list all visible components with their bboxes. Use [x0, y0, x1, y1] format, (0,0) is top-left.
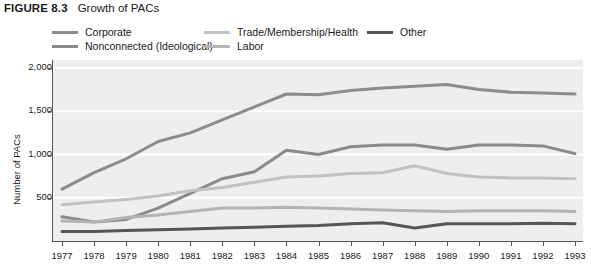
x-tick-label: 1992	[532, 250, 553, 261]
x-tick-mark	[543, 242, 544, 246]
x-tick-label: 1977	[51, 250, 72, 261]
x-tick-mark	[351, 242, 352, 246]
y-tick-mark	[48, 198, 52, 199]
x-tick-label: 1991	[500, 250, 521, 261]
x-tick-label: 1987	[372, 250, 393, 261]
x-tick-mark	[479, 242, 480, 246]
x-tick-label: 1980	[148, 250, 169, 261]
legend-label-corporate: Corporate	[85, 27, 132, 38]
x-tick-label: 1983	[244, 250, 265, 261]
x-tick-mark	[383, 242, 384, 246]
x-tick-label: 1981	[180, 250, 201, 261]
x-tick-mark	[286, 242, 287, 246]
legend-item-labor: Labor	[204, 41, 264, 52]
legend-swatch-corporate	[52, 31, 78, 35]
legend-label-trade-membership-health: Trade/Membership/Health	[237, 27, 358, 38]
legend-label-labor: Labor	[237, 41, 264, 52]
figure-container: FIGURE 8.3Growth of PACs Corporate Nonco…	[0, 0, 591, 266]
legend-item-corporate: Corporate	[52, 27, 132, 38]
x-tick-label: 1979	[116, 250, 137, 261]
legend-item-trade-membership-health: Trade/Membership/Health	[204, 27, 358, 38]
x-tick-mark	[319, 242, 320, 246]
legend-swatch-trade-membership-health	[204, 31, 230, 35]
x-tick-mark	[190, 242, 191, 246]
legend-label-other: Other	[400, 27, 426, 38]
x-tick-mark	[575, 242, 576, 246]
x-tick-label: 1990	[468, 250, 489, 261]
x-tick-label: 1986	[340, 250, 361, 261]
x-tick-label: 1984	[276, 250, 297, 261]
y-tick-mark	[48, 111, 52, 112]
x-tick-label: 1988	[404, 250, 425, 261]
x-tick-mark	[94, 242, 95, 246]
plot-background	[53, 60, 583, 241]
x-tick-mark	[254, 242, 255, 246]
x-tick-mark	[126, 242, 127, 246]
x-tick-mark	[415, 242, 416, 246]
x-tick-label: 1989	[436, 250, 457, 261]
chart-legend: Corporate Nonconnected (Ideological) Tra…	[52, 27, 532, 53]
y-tick-mark	[48, 155, 52, 156]
x-tick-mark	[158, 242, 159, 246]
x-tick-mark	[447, 242, 448, 246]
legend-item-nonconnected: Nonconnected (Ideological)	[52, 41, 213, 52]
figure-title: Growth of PACs	[78, 2, 160, 14]
legend-item-other: Other	[367, 27, 426, 38]
x-axis-ticks: 1977197819791980198119821983198419851986…	[52, 242, 582, 266]
legend-swatch-labor	[204, 45, 230, 49]
figure-caption: FIGURE 8.3Growth of PACs	[4, 2, 159, 14]
line-chart-svg	[0, 60, 591, 266]
x-tick-mark	[511, 242, 512, 246]
plot-area: Number of PACs 2,0001,5001,000500 197719…	[0, 60, 591, 266]
x-tick-label: 1982	[212, 250, 233, 261]
figure-number: FIGURE 8.3	[4, 2, 68, 14]
x-tick-label: 1985	[308, 250, 329, 261]
x-tick-mark	[222, 242, 223, 246]
legend-swatch-other	[367, 31, 393, 35]
x-tick-mark	[62, 242, 63, 246]
legend-swatch-nonconnected	[52, 45, 78, 49]
y-tick-mark	[48, 68, 52, 69]
x-tick-label: 1993	[564, 250, 585, 261]
x-tick-label: 1978	[83, 250, 104, 261]
legend-label-nonconnected: Nonconnected (Ideological)	[85, 41, 213, 52]
